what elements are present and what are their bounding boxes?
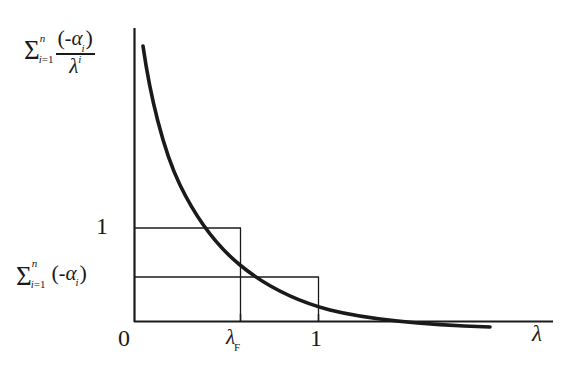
- x-axis-name-label: λ: [532, 322, 542, 345]
- x-tick-label-one: 1: [310, 326, 322, 350]
- summation-lower-limit-mid: i=1: [31, 279, 46, 290]
- summation-limits-top: n i=1: [39, 40, 54, 62]
- x-tick-label-zero: 0: [118, 326, 130, 350]
- x-tick-label-lambda-f: λF: [226, 326, 241, 351]
- summation-lower-limit-top: i=1: [39, 54, 54, 65]
- summation-upper-limit-top: n: [40, 33, 55, 44]
- y-tick-label-one: 1: [96, 214, 108, 238]
- mid-expression: (-αi): [52, 266, 87, 283]
- y-axis-mid-label: Σ n i=1 (-αi): [16, 262, 87, 290]
- fraction-top: (-αi) λi: [56, 27, 95, 77]
- fraction-denominator: λi: [56, 55, 95, 77]
- fraction-numerator: (-αi): [56, 27, 95, 53]
- y-axis-top-label: Σ n i=1 (-αi) λi: [24, 26, 95, 76]
- summation-operator-mid: Σ: [16, 263, 32, 290]
- figure-canvas: Σ n i=1 (-αi) λi Σ n i=1 (-αi) 1 0 λF 1 …: [0, 0, 581, 367]
- lambda-f-subscript: F: [234, 341, 240, 353]
- summation-limits-mid: n i=1: [31, 265, 46, 287]
- summation-operator-top: Σ: [24, 37, 40, 64]
- decay-curve: [143, 46, 490, 327]
- summation-upper-limit-mid: n: [32, 258, 47, 269]
